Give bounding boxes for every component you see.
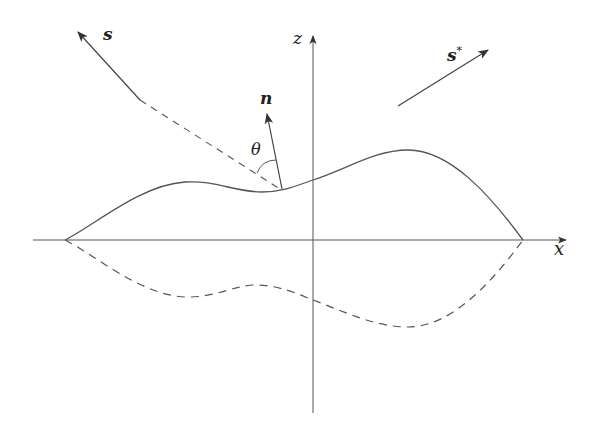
label-s-star-sup: *: [457, 44, 463, 57]
label-s: s: [103, 26, 113, 43]
label-s-star: s*: [447, 45, 462, 64]
label-theta: θ: [251, 142, 261, 158]
diagram-svg: [0, 0, 598, 436]
scattered-vector-s-star: [398, 50, 488, 106]
label-z: z: [293, 30, 302, 47]
angle-arc: [257, 160, 276, 173]
diagram-canvas: s n θ z s* x: [0, 0, 598, 436]
normal-vector-n: [267, 114, 282, 189]
mirrored-surface-profile: [65, 240, 523, 327]
label-x: x: [554, 240, 564, 258]
label-n: n: [260, 90, 272, 107]
surface-profile: [65, 150, 523, 240]
label-s-star-base: s: [447, 45, 457, 65]
